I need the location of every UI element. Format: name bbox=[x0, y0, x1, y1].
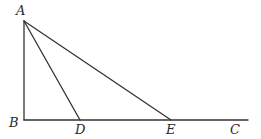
segment-ae bbox=[24, 21, 171, 120]
segment-ad bbox=[24, 21, 80, 120]
label-d: D bbox=[74, 122, 86, 137]
label-c: C bbox=[230, 122, 240, 137]
label-e: E bbox=[165, 122, 176, 137]
segments bbox=[24, 21, 248, 120]
label-a: A bbox=[15, 3, 25, 18]
point-labels: A B D E C bbox=[8, 3, 240, 137]
geometry-diagram: A B D E C bbox=[0, 0, 261, 139]
label-b: B bbox=[8, 115, 19, 130]
